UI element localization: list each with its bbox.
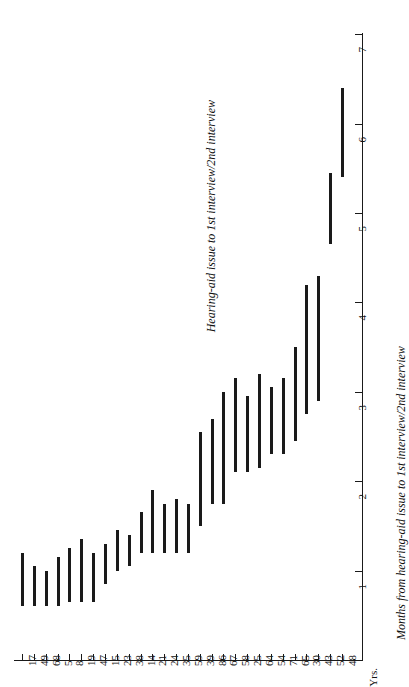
category-tick-label: 15 <box>110 655 121 666</box>
category-tick-label: 14 <box>146 655 157 666</box>
category-tick <box>235 654 236 661</box>
value-tick-label: 5 <box>357 206 368 232</box>
category-tick <box>164 654 165 661</box>
range-bar <box>234 378 237 472</box>
category-tick <box>223 654 224 661</box>
range-chart: 1234567 17496858194715233814212435593986… <box>0 0 409 687</box>
category-tick-label: 48 <box>347 655 358 666</box>
value-tick-label: 2 <box>357 474 368 500</box>
category-tick-label: 21 <box>157 655 168 666</box>
category-tick <box>188 654 189 661</box>
category-tick <box>129 654 130 661</box>
category-tick-label: 86 <box>217 655 228 666</box>
category-tick <box>69 654 70 661</box>
range-bar <box>187 504 190 553</box>
category-tick-label: 67 <box>228 655 239 666</box>
range-bar <box>211 419 214 504</box>
category-tick-label: 52 <box>335 655 346 666</box>
category-tick <box>117 654 118 661</box>
category-tick-label: 58 <box>240 655 251 666</box>
range-bar <box>199 432 202 526</box>
category-tick <box>330 654 331 661</box>
category-tick <box>200 654 201 661</box>
category-axis-unit-label: Yrs. <box>368 668 379 687</box>
category-tick-label: 38 <box>134 655 145 666</box>
range-bar <box>33 566 36 606</box>
category-tick <box>46 654 47 661</box>
range-bar <box>80 539 83 602</box>
category-tick-label: 68 <box>51 655 62 666</box>
value-tick-label: 4 <box>357 295 368 321</box>
range-bar <box>128 535 131 566</box>
range-bar <box>317 276 320 401</box>
category-tick <box>295 654 296 661</box>
range-bar <box>282 378 285 454</box>
value-tick-label: 7 <box>357 27 368 53</box>
category-tick-label: 64 <box>264 655 275 666</box>
category-tick <box>212 654 213 661</box>
category-tick-label: 59 <box>193 655 204 666</box>
category-tick <box>81 654 82 661</box>
range-bar <box>151 490 154 553</box>
range-bar <box>341 88 344 177</box>
category-tick-label: 47 <box>98 655 109 666</box>
category-tick-label: 19 <box>86 655 97 666</box>
category-tick-label: 43 <box>323 655 334 666</box>
category-tick <box>318 654 319 661</box>
chart-title: Hearing-aid issue to 1st interview/2nd i… <box>205 100 217 332</box>
category-tick-label: 49 <box>39 655 50 666</box>
range-bar <box>140 512 143 552</box>
category-tick <box>271 654 272 661</box>
range-bar <box>175 499 178 553</box>
category-tick <box>283 654 284 661</box>
category-tick <box>58 654 59 661</box>
range-bar <box>104 544 107 584</box>
category-tick <box>306 654 307 661</box>
category-tick <box>342 654 343 661</box>
category-tick-label: 71 <box>288 655 299 666</box>
category-tick <box>247 654 248 661</box>
value-tick-label: 3 <box>357 384 368 410</box>
category-tick-label: 35 <box>181 655 192 666</box>
range-bar <box>116 530 119 570</box>
range-bar <box>163 504 166 553</box>
range-bar <box>270 387 273 454</box>
range-bar <box>294 347 297 441</box>
range-bar <box>57 557 60 606</box>
category-tick-label: 30 <box>311 655 322 666</box>
category-tick-label: 39 <box>205 655 216 666</box>
category-tick <box>152 654 153 661</box>
category-tick-label: 54 <box>276 655 287 666</box>
category-tick <box>176 654 177 661</box>
category-tick-label: 8 <box>74 661 85 667</box>
range-bar <box>246 396 249 472</box>
category-tick-label: 65 <box>300 655 311 666</box>
category-tick <box>105 654 106 661</box>
category-tick-label: 24 <box>169 655 180 666</box>
value-tick-label: 1 <box>357 563 368 589</box>
range-bar <box>258 374 261 468</box>
range-bar <box>45 571 48 607</box>
category-tick-label: 25 <box>252 655 263 666</box>
category-tick <box>141 654 142 661</box>
range-bar <box>222 392 225 504</box>
category-tick-label: 23 <box>122 655 133 666</box>
range-bar <box>68 548 71 602</box>
category-tick-label: 17 <box>27 655 38 666</box>
value-axis-title: Months from hearing-aid issue to 1st int… <box>395 346 407 640</box>
category-tick <box>93 654 94 661</box>
range-bar <box>92 553 95 602</box>
category-tick <box>34 654 35 661</box>
category-tick-label: 5 <box>63 661 74 667</box>
range-bar <box>305 285 308 415</box>
category-tick <box>22 654 23 661</box>
category-tick <box>259 654 260 661</box>
range-bar <box>21 553 24 607</box>
value-tick-label: 6 <box>357 116 368 142</box>
range-bar <box>329 173 332 245</box>
